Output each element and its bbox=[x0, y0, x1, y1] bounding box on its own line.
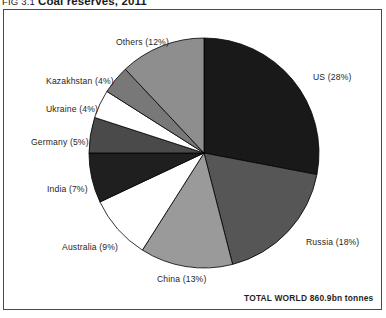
pie-label-kazakhstan: Kazakhstan (4%) bbox=[46, 76, 114, 86]
total-world-prefix: TOTAL WORLD bbox=[244, 293, 310, 303]
chart-frame: Others (12%) Kazakhstan (4%) Ukraine (4%… bbox=[3, 9, 382, 310]
pie-label-australia: Australia (9%) bbox=[62, 242, 118, 252]
total-world-value: 860.9bn tonnes bbox=[310, 293, 374, 303]
pie-label-us: US (28%) bbox=[313, 72, 351, 82]
pie-slice-group bbox=[89, 38, 319, 268]
figure-number: FIG 3.1 bbox=[2, 0, 35, 7]
pie-label-ukraine: Ukraine (4%) bbox=[46, 104, 98, 114]
figure-caption: FIG 3.1Coal reserves, 2011 bbox=[2, 0, 147, 9]
pie-chart bbox=[4, 10, 383, 311]
total-world-annotation: TOTAL WORLD 860.9bn tonnes bbox=[244, 293, 373, 303]
pie-label-china: China (13%) bbox=[157, 274, 206, 284]
figure-title: Coal reserves, 2011 bbox=[38, 0, 147, 7]
pie-slice-us bbox=[204, 38, 319, 175]
pie-label-germany: Germany (5%) bbox=[31, 137, 89, 147]
pie-label-india: India (7%) bbox=[47, 184, 88, 194]
pie-label-others: Others (12%) bbox=[116, 37, 169, 47]
pie-label-russia: Russia (18%) bbox=[306, 237, 359, 247]
